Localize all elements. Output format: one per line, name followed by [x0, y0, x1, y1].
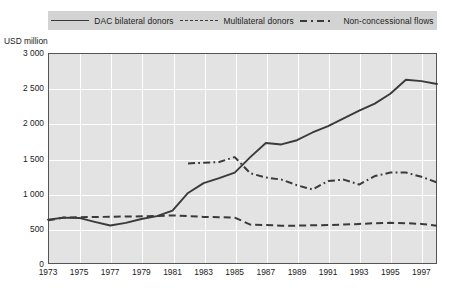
legend-item-multilateral-donors: Multilateral donors	[180, 16, 293, 26]
x-axis-tick-label: 1993	[347, 267, 371, 277]
series-line-non-concessional-flows	[188, 157, 437, 189]
x-axis-tick-label: 1977	[98, 267, 122, 277]
x-axis-tick-label: 1975	[67, 267, 91, 277]
x-axis-tick-label: 1989	[285, 267, 309, 277]
x-axis-tick-label: 1973	[36, 267, 60, 277]
x-axis-tick-label: 1991	[316, 267, 340, 277]
chart-legend: DAC bilateral donors Multilateral donors…	[48, 11, 437, 30]
x-axis-tick-label: 1983	[192, 267, 216, 277]
y-axis-tick-label: 2 500	[0, 83, 44, 93]
series-line-dac-bilateral-donors	[48, 80, 437, 226]
y-axis-tick-label: 1 000	[0, 189, 44, 199]
x-axis-tick-label: 1979	[129, 267, 153, 277]
legend-label-dac-bilateral-donors: DAC bilateral donors	[94, 16, 173, 26]
y-axis-tick-label: 3 000	[0, 48, 44, 58]
x-axis-tick-label: 1985	[223, 267, 247, 277]
legend-label-non-concessional-flows: Non-concessional flows	[343, 16, 433, 26]
y-axis-tick-label: 2 000	[0, 118, 44, 128]
x-axis-tick-label: 1995	[378, 267, 402, 277]
y-axis-unit-label: USD million	[4, 36, 48, 46]
y-axis-tick-label: 1 500	[0, 154, 44, 164]
chart-series-layer	[48, 53, 437, 264]
dashed-line-swatch-icon	[180, 17, 218, 25]
solid-line-swatch-icon	[51, 17, 89, 25]
chart-page: DAC bilateral donors Multilateral donors…	[0, 0, 462, 293]
legend-label-multilateral-donors: Multilateral donors	[223, 16, 293, 26]
dash-dot-line-swatch-icon	[300, 17, 338, 25]
x-axis-tick-label: 1987	[254, 267, 278, 277]
x-axis-tick-label: 1981	[161, 267, 185, 277]
legend-item-dac-bilateral-donors: DAC bilateral donors	[51, 16, 173, 26]
x-axis-tick-label: 1997	[409, 267, 433, 277]
legend-item-non-concessional-flows: Non-concessional flows	[300, 16, 433, 26]
y-axis-tick-label: 500	[0, 224, 44, 234]
